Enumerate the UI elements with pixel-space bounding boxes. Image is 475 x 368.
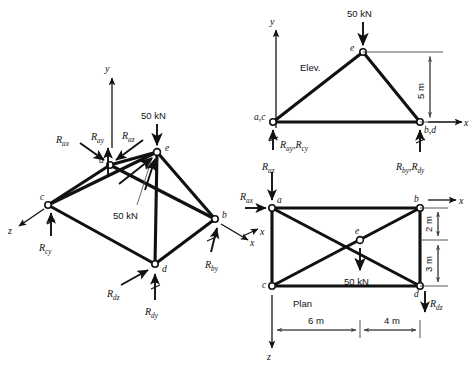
plan-title: Plan	[293, 298, 312, 309]
plan-node-e	[357, 237, 364, 244]
plan-node-b-label: b	[414, 194, 419, 204]
iso-load-leader-label: 50 kN	[113, 210, 138, 221]
elev-y-axis-label: y	[269, 16, 275, 27]
elev-node-bd-label: b,d	[424, 125, 436, 135]
elev-node-e-label: e	[350, 43, 354, 53]
iso-node-b	[212, 216, 218, 222]
iso-z-axis-label: z	[7, 225, 12, 236]
plan-load-label: 50 kN	[344, 276, 369, 287]
plan-dimension-bottom-offset-label: 3 m	[423, 256, 434, 272]
iso-node-d	[152, 261, 158, 267]
iso-node-e	[154, 149, 161, 156]
plan-node-a	[269, 205, 275, 211]
plan-z-axis-label: z	[266, 351, 271, 362]
iso-node-c	[45, 202, 51, 208]
truss-figure: y z x a c b d e	[0, 0, 475, 368]
iso-y-axis-label: y	[104, 63, 110, 74]
plan-x-axis-left-label: x	[259, 226, 265, 237]
figure-background	[0, 0, 475, 368]
iso-node-d-label: d	[162, 264, 167, 274]
iso-x-axis-label: x	[249, 237, 255, 248]
elev-x-axis-label: x	[463, 117, 469, 128]
plan-node-d-label: d	[414, 289, 419, 299]
iso-member-de	[155, 152, 157, 264]
plan-node-e-label: e	[355, 226, 359, 236]
plan-dimension-top-offset-label: 2 m	[423, 216, 434, 232]
plan-node-c	[269, 283, 275, 289]
elev-dimension-height-label: 5 m	[415, 83, 426, 99]
plan-dimension-right-span-label: 4 m	[384, 315, 400, 326]
iso-load-label: 50 kN	[141, 110, 166, 121]
elev-title: Elev.	[300, 62, 320, 73]
plan-node-a-label: a	[277, 195, 282, 205]
elev-node-ac-label: a,c	[254, 112, 266, 122]
plan-x-axis-right-label: x	[458, 195, 464, 206]
elev-node-ac	[270, 119, 276, 125]
plan-dimension-left-span-label: 6 m	[308, 315, 324, 326]
iso-node-b-label: b	[222, 210, 227, 220]
elev-load-label: 50 kN	[347, 8, 372, 19]
iso-node-e-label: e	[165, 143, 169, 153]
